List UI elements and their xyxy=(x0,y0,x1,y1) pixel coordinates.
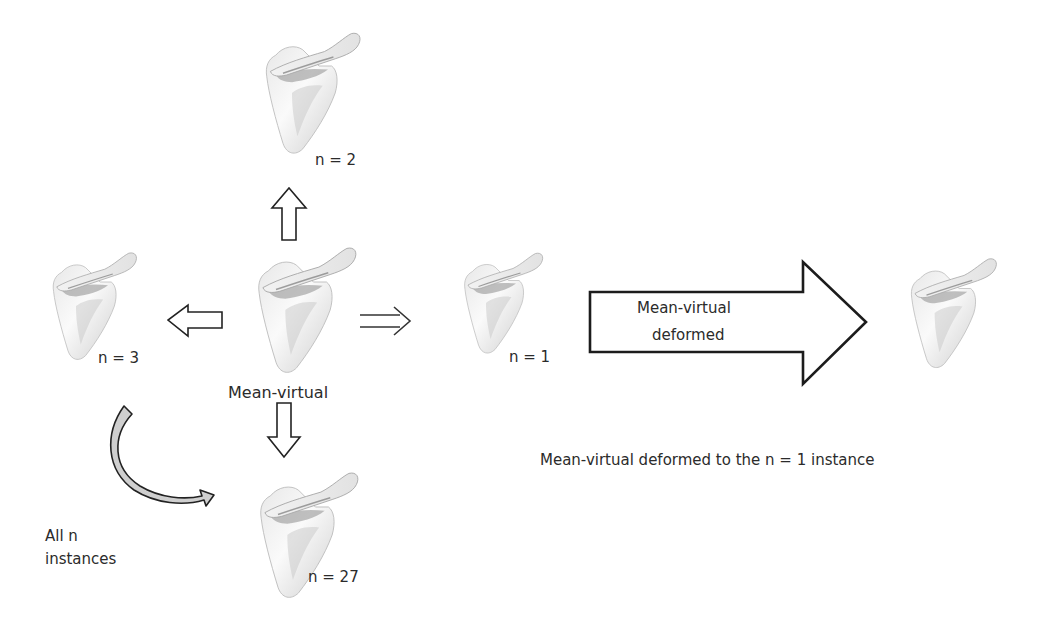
n3-label: n = 3 xyxy=(98,349,139,367)
big-arrow-label-line1: Mean-virtual xyxy=(637,299,731,317)
n1-label: n = 1 xyxy=(509,348,550,366)
curved-arrow-icon xyxy=(0,0,1044,622)
caption: Mean-virtual deformed to the n = 1 insta… xyxy=(540,451,875,469)
all-n-instances-line1: All n xyxy=(45,527,78,545)
mean-virtual-label: Mean-virtual xyxy=(228,384,328,402)
n2-label: n = 2 xyxy=(315,151,356,169)
all-n-instances-line2: instances xyxy=(45,550,116,568)
n27-label: n = 27 xyxy=(308,568,359,586)
big-arrow-label-line2: deformed xyxy=(652,326,724,344)
